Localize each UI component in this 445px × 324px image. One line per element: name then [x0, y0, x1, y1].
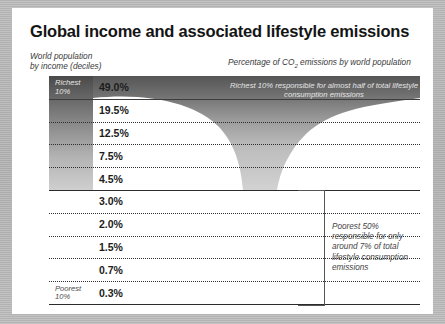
table-row: 4.5%: [49, 167, 420, 190]
page-background: Global income and associated lifestyle e…: [0, 0, 445, 324]
axis-label-emissions: Percentage of CO2 emissions by world pop…: [228, 58, 411, 71]
row-decile-label: Poorest 10%: [55, 284, 81, 301]
table-row: 3.0%: [49, 190, 420, 213]
row-value: 49.0%: [99, 81, 129, 93]
table-row: Poorest 10% 0.3%: [49, 281, 420, 304]
page-title: Global income and associated lifestyle e…: [30, 22, 409, 41]
row-value: 19.5%: [99, 104, 129, 116]
axis-label-population: World population by income (deciles): [30, 52, 101, 71]
row-value: 0.7%: [99, 264, 123, 276]
row-decile-label: Richest 10%: [55, 79, 80, 96]
table-row: 7.5%: [49, 144, 420, 167]
row-value: 4.5%: [99, 173, 123, 185]
table-bottom-border: [49, 304, 420, 305]
row-value: 0.3%: [99, 287, 123, 299]
annotation-poorest: Poorest 50% responsible for only around …: [332, 222, 436, 273]
table-row: 12.5%: [49, 122, 420, 145]
table-row: 19.5%: [49, 99, 420, 122]
chart-plate: Richest 10% responsible for almost half …: [30, 76, 420, 304]
axis-label-emissions-suffix: emissions by world population: [298, 57, 411, 67]
row-value: 12.5%: [99, 127, 129, 139]
row-value: 7.5%: [99, 150, 123, 162]
row-value: 2.0%: [99, 218, 123, 230]
row-value: 3.0%: [99, 195, 123, 207]
row-value: 1.5%: [99, 241, 123, 253]
axis-label-emissions-prefix: Percentage of CO: [228, 57, 294, 67]
poorest-50-bracket: [298, 190, 325, 306]
table-row: Richest 10% 49.0%: [49, 76, 420, 99]
infographic-card: Global income and associated lifestyle e…: [12, 8, 433, 314]
